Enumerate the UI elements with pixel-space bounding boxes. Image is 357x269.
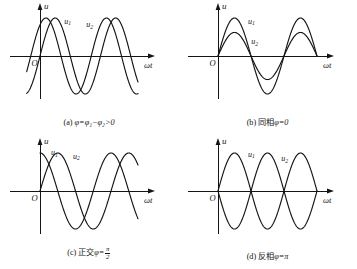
x-axis-arrowhead xyxy=(148,189,155,194)
x-axis-arrowhead xyxy=(327,54,334,59)
panel-d-svg: u1u2uωtO xyxy=(178,135,357,239)
panel-b-caption-cn: 同相 xyxy=(258,118,274,127)
panel-d-labels: u1u2uωtO xyxy=(210,136,333,205)
y-axis-arrowhead xyxy=(38,3,43,10)
curve-label-u1: u1 xyxy=(248,17,255,27)
origin-label: O xyxy=(32,193,38,203)
panel-d-caption-tag: (d) xyxy=(247,252,257,261)
curve-label-u1: u1 xyxy=(51,148,58,158)
panel-a-caption-math: φ=φ₁−φ₂>0 xyxy=(75,118,115,127)
y-axis-label: u xyxy=(44,1,49,11)
y-axis-arrowhead xyxy=(216,138,221,145)
y-axis-label: u xyxy=(222,1,227,11)
panel-d-plot: u1u2uωtO xyxy=(178,135,357,239)
panel-c-caption-tag: (c) xyxy=(67,249,76,258)
x-axis-arrowhead xyxy=(327,189,334,194)
panel-a-labels: u1u2uωtO xyxy=(32,1,154,70)
phase-relationship-figure: u1u2uωtO (a) φ=φ₁−φ₂>0 u1u2uωtO (b) 同相φ=… xyxy=(0,0,357,269)
origin-label: O xyxy=(32,58,38,68)
origin-label: O xyxy=(210,193,216,203)
panel-c-caption: (c) 正交φ=π2 xyxy=(0,246,178,261)
origin-label: O xyxy=(210,58,216,68)
panel-b-plot: u1u2uωtO xyxy=(178,0,357,104)
y-axis-arrowhead xyxy=(216,3,221,10)
curve-label-u2: u2 xyxy=(281,154,288,164)
panel-a-caption-tag: (a) xyxy=(63,118,72,127)
panel-b-caption-math: φ=0 xyxy=(274,118,288,127)
panel-d-caption-cn: 反相 xyxy=(258,252,274,261)
y-axis-label: u xyxy=(44,136,49,146)
panel-b-caption: (b) 同相φ=0 xyxy=(178,118,357,127)
panel-a: u1u2uωtO (a) φ=φ₁−φ₂>0 xyxy=(0,0,178,135)
curve-label-u1: u1 xyxy=(64,17,71,27)
curve-label-u2: u2 xyxy=(73,152,80,162)
panel-b: u1u2uωtO (b) 同相φ=0 xyxy=(178,0,357,135)
x-axis-label: ωt xyxy=(144,60,153,70)
fraction-denominator: 2 xyxy=(105,253,110,261)
panel-c-caption-fraction: π2 xyxy=(105,246,110,261)
panel-c-svg: u1u2uωtO xyxy=(0,135,178,239)
curve-label-u2: u2 xyxy=(86,20,93,30)
fraction-numerator: π xyxy=(105,246,110,253)
x-axis-arrowhead xyxy=(148,54,155,59)
panel-d-caption: (d) 反相φ=π xyxy=(178,252,357,261)
panel-c: u1u2uωtO (c) 正交φ=π2 xyxy=(0,135,178,269)
panel-a-plot: u1u2uωtO xyxy=(0,0,178,104)
panel-b-axes xyxy=(188,3,334,99)
panel-d-caption-math: φ=π xyxy=(274,252,288,261)
x-axis-label: ωt xyxy=(323,60,332,70)
y-axis-arrowhead xyxy=(38,138,43,145)
panel-c-plot: u1u2uωtO xyxy=(0,135,178,239)
panel-d: u1u2uωtO (d) 反相φ=π xyxy=(178,135,357,269)
panel-a-svg: u1u2uωtO xyxy=(0,0,178,104)
panel-d-axes xyxy=(188,138,334,234)
panel-b-labels: u1u2uωtO xyxy=(210,1,333,70)
panel-c-caption-math: φ= xyxy=(94,249,104,258)
x-axis-label: ωt xyxy=(323,195,332,205)
x-axis-label: ωt xyxy=(144,195,153,205)
panel-b-svg: u1u2uωtO xyxy=(178,0,357,104)
curve-label-u1: u1 xyxy=(248,150,255,160)
curve-label-u2: u2 xyxy=(251,37,258,47)
panel-c-axes xyxy=(10,138,155,234)
panel-b-caption-tag: (b) xyxy=(247,118,257,127)
panel-a-caption: (a) φ=φ₁−φ₂>0 xyxy=(0,118,178,127)
y-axis-label: u xyxy=(222,136,227,146)
panel-c-caption-cn: 正交 xyxy=(78,249,94,258)
